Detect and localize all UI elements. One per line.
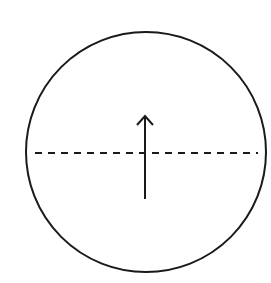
diagram-canvas — [0, 0, 271, 283]
up-arrow-icon — [137, 116, 153, 199]
